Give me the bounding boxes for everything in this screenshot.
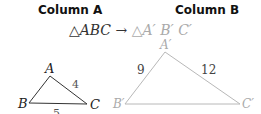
triangle-a-prime: A′ B′ C′ 9 12 [112,38,254,111]
triangle-abc: A B C 4 5 [17,61,100,114]
side-ac-length: 4 [72,78,79,91]
triangles-diagram: A B C 4 5 A′ B′ C′ 9 12 [0,0,261,114]
vertex-b: B [17,96,28,111]
vertex-c: C [90,97,100,112]
side-ac-prime-length: 12 [201,63,216,77]
vertex-b-prime: B′ [112,97,125,111]
vertex-a-prime: A′ [159,38,172,52]
figure: Column A Column B △ABC → △A′ B′ C′ A B C… [0,0,261,114]
vertex-c-prime: C′ [242,97,254,111]
side-ab-prime-length: 9 [137,63,145,77]
vertex-a: A [44,61,54,76]
side-bc-length: 5 [53,107,60,114]
